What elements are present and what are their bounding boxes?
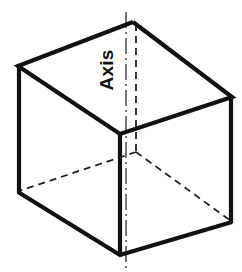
figure-container: Axis: [0, 0, 242, 272]
axis-label: Axis: [96, 50, 117, 91]
cube-diagram: Axis: [0, 0, 242, 272]
